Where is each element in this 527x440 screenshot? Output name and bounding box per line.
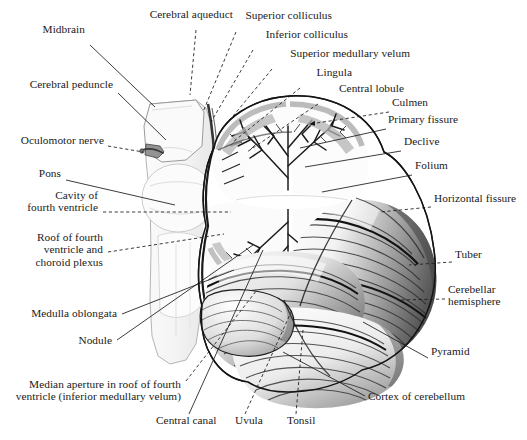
label-median-aperture: Median aperture in roof of fourth ventri… bbox=[0, 378, 181, 403]
label-cerebral-peduncle: Cerebral peduncle bbox=[0, 78, 113, 90]
label-cortex-of-cerebellum: Cortex of cerebellum bbox=[368, 390, 465, 402]
label-inferior-colliculus: Inferior colliculus bbox=[0, 28, 348, 40]
label-horizontal-fissure: Horizontal fissure bbox=[434, 192, 516, 204]
label-tonsil: Tonsil bbox=[287, 414, 315, 426]
oculomotor-nerve-shape bbox=[140, 144, 164, 158]
label-cavity-of-fourth-ventricle: Cavity of fourth ventricle bbox=[0, 189, 98, 214]
label-central-canal: Central canal bbox=[156, 414, 217, 426]
label-uvula: Uvula bbox=[235, 414, 263, 426]
label-primary-fissure: Primary fissure bbox=[388, 113, 458, 125]
label-folium: Folium bbox=[415, 159, 448, 171]
label-oculomotor-nerve: Oculomotor nerve bbox=[0, 134, 104, 146]
label-roof-of-fourth-ventricle: Roof of fourth ventricle and choroid ple… bbox=[0, 231, 103, 268]
label-pyramid: Pyramid bbox=[431, 345, 470, 357]
label-culmen: Culmen bbox=[392, 96, 428, 108]
label-nodule: Nodule bbox=[0, 334, 112, 346]
label-cerebellar-hemisphere: Cerebellar hemisphere bbox=[448, 283, 501, 308]
label-superior-colliculus: Superior colliculus bbox=[0, 9, 332, 21]
label-medulla-oblongata: Medulla oblongata bbox=[0, 307, 117, 319]
label-lingula: Lingula bbox=[0, 66, 352, 78]
label-superior-medullary-velum: Superior medullary velum bbox=[0, 47, 410, 59]
label-tuber: Tuber bbox=[455, 248, 482, 260]
label-pons: Pons bbox=[0, 167, 61, 179]
label-declive: Declive bbox=[404, 135, 439, 147]
figure-canvas: MidbrainCerebral aqueductSuperior collic… bbox=[0, 0, 527, 440]
